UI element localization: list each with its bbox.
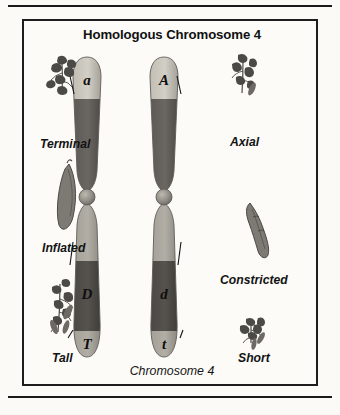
right-chromosome: A d t <box>141 51 187 363</box>
pea-pod-icon-inflated <box>57 160 75 229</box>
trait-label-axial: Axial <box>230 135 259 149</box>
flower-cluster-icon-terminal <box>46 56 76 95</box>
leader-tall <box>68 330 73 338</box>
page-rule-top <box>8 5 332 7</box>
chromosome-figure: Homologous Chromosome 4 <box>0 0 340 415</box>
leader-short <box>180 330 183 338</box>
trait-label-constricted: Constricted <box>220 273 288 287</box>
trait-label-inflated: Inflated <box>42 241 85 255</box>
allele-d: d <box>160 286 168 302</box>
short-plant-icon <box>240 318 267 351</box>
allele-T: T <box>82 336 92 352</box>
page-rule-bottom <box>8 396 332 398</box>
trait-label-tall: Tall <box>52 351 73 365</box>
trait-label-short: Short <box>238 351 270 365</box>
allele-D: D <box>81 286 93 302</box>
centromere-right <box>156 189 172 205</box>
tall-plant-icon <box>48 279 74 335</box>
trait-label-terminal: Terminal <box>40 137 90 151</box>
leader-constricted <box>178 242 181 265</box>
flower-cluster-icon-axial <box>232 54 257 97</box>
figure-box: Homologous Chromosome 4 <box>22 19 318 386</box>
allele-a: a <box>83 72 91 88</box>
centromere-left <box>79 189 95 205</box>
allele-A: A <box>158 72 169 88</box>
diagram-canvas: a D T A d t <box>24 21 320 388</box>
figure-footer-label: Chromosome 4 <box>24 364 320 378</box>
constricted-pod-icon <box>247 203 269 258</box>
